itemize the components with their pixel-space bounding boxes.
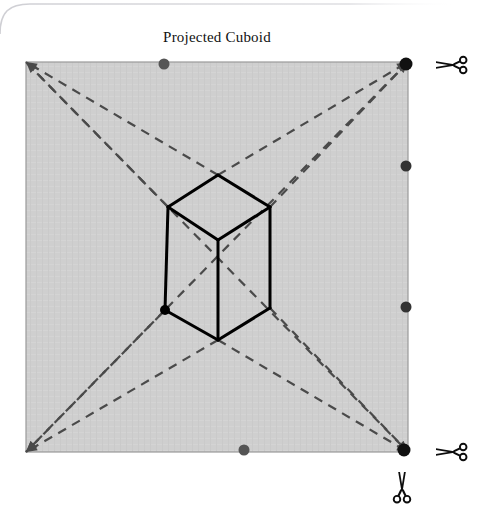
figure-stage: Projected Cuboid — [0, 0, 484, 520]
marker-right-edge-lower — [401, 302, 412, 313]
marker-top-right-corner — [400, 58, 413, 71]
marker-right-edge-upper — [401, 161, 412, 172]
marker-bottom-right-corner — [398, 444, 411, 457]
marker-cuboid-bottom-left — [160, 305, 170, 315]
marker-bottom-edge — [239, 445, 250, 456]
marker-top-edge — [159, 59, 170, 70]
projection-figure — [0, 0, 484, 520]
